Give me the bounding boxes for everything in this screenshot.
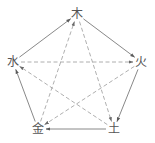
edge-metal-to-wood xyxy=(41,22,75,122)
five-elements-diagram xyxy=(0,0,155,143)
node-fire-label: 火 xyxy=(135,56,147,68)
node-metal-label: 金 xyxy=(32,123,44,135)
node-earth-label: 土 xyxy=(108,123,120,135)
edge-wood-to-fire xyxy=(83,19,134,57)
edge-metal-to-water xyxy=(16,70,35,122)
edges-layer xyxy=(16,19,138,129)
node-wood-label: 木 xyxy=(71,8,83,20)
edge-fire-to-earth xyxy=(117,69,138,121)
edge-water-to-wood xyxy=(19,19,70,57)
edge-fire-to-metal xyxy=(45,66,135,124)
node-water-label: 水 xyxy=(7,56,19,68)
